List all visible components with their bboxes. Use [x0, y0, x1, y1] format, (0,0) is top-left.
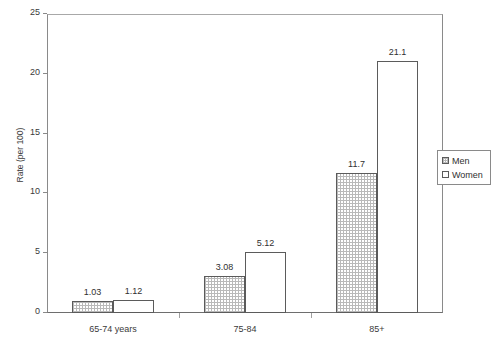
bar-women-2 [377, 61, 418, 313]
x-tick-label: 85+ [311, 324, 443, 335]
y-tick-label: 15 [30, 127, 40, 138]
bar-value-label: 3.08 [198, 262, 251, 273]
legend-label-women: Women [452, 170, 483, 180]
bar-value-label: 11.7 [330, 159, 383, 170]
bars-layer: 1.031.123.085.1211.721.1 [47, 14, 443, 313]
legend-swatch-men-icon [442, 157, 449, 164]
y-axis: Rate (per 100) 0510152025 [0, 0, 47, 343]
bar-women-1 [245, 252, 286, 313]
legend-label-men: Men [452, 156, 470, 166]
x-axis-separator [311, 313, 312, 318]
legend-item-women: Women [442, 169, 487, 180]
bar-value-label: 5.12 [239, 238, 292, 249]
bar-men-1 [204, 276, 245, 313]
bar-women-0 [113, 300, 154, 313]
legend: Men Women [437, 150, 491, 185]
bar-value-label: 1.12 [107, 286, 160, 297]
bar-men-0 [72, 301, 113, 313]
x-axis: 65-74 years75-8485+ [47, 313, 443, 343]
x-tick-label: 65-74 years [47, 324, 179, 335]
y-tick-label: 0 [35, 306, 40, 317]
y-tick-label: 25 [30, 7, 40, 18]
bar-chart: Rate (per 100) 0510152025 1.031.123.085.… [0, 0, 498, 343]
legend-swatch-women-icon [442, 171, 449, 178]
x-axis-separator [179, 313, 180, 318]
y-axis-title: Rate (per 100) [15, 105, 25, 205]
legend-item-men: Men [442, 155, 487, 166]
bar-men-2 [336, 173, 377, 313]
y-tick-label: 10 [30, 186, 40, 197]
y-tick-label: 5 [35, 246, 40, 257]
bar-value-label: 21.1 [371, 47, 424, 58]
x-tick-label: 75-84 [179, 324, 311, 335]
y-tick-label: 20 [30, 67, 40, 78]
